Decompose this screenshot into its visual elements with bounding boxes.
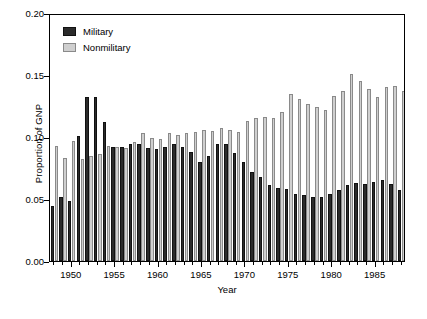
bar-nonmilitary — [324, 110, 327, 261]
x-tick-mark-minor — [392, 262, 393, 265]
x-tick-label: 1950 — [60, 269, 81, 280]
legend-label: Nonmilitary — [83, 42, 131, 53]
legend-item: Nonmilitary — [63, 40, 173, 54]
x-tick-label: 1965 — [190, 269, 211, 280]
bar-nonmilitary — [185, 133, 188, 261]
bar-military — [59, 197, 62, 261]
bar-nonmilitary — [332, 96, 335, 261]
x-tick-mark-minor — [184, 262, 185, 265]
x-tick-mark-minor — [305, 262, 306, 265]
x-tick-mark-major — [288, 262, 289, 267]
legend-swatch-icon — [63, 27, 76, 36]
bar-military — [146, 148, 149, 261]
x-tick-mark-minor — [227, 262, 228, 265]
x-tick-mark-minor — [401, 262, 402, 265]
bar-military — [250, 172, 253, 261]
bar-nonmilitary — [211, 131, 214, 261]
bar-nonmilitary — [306, 104, 309, 261]
y-axis-ticks: 0.000.050.100.150.20 — [10, 0, 44, 319]
bar-military — [372, 182, 375, 261]
bar-military — [328, 194, 331, 261]
bar-military — [224, 144, 227, 261]
bar-military — [233, 153, 236, 261]
bar-nonmilitary — [150, 138, 153, 261]
bar-nonmilitary — [176, 135, 179, 261]
bar-military — [259, 177, 262, 261]
bar-nonmilitary — [124, 148, 127, 261]
x-tick-mark-minor — [149, 262, 150, 265]
bar-nonmilitary — [194, 132, 197, 261]
bar-military — [198, 162, 201, 261]
bar-nonmilitary — [254, 118, 257, 261]
bar-military — [77, 136, 80, 261]
bar-military — [294, 194, 297, 261]
bar-nonmilitary — [341, 91, 344, 261]
x-tick-mark-major — [375, 262, 376, 267]
x-tick-mark-minor — [123, 262, 124, 265]
bar-military — [337, 190, 340, 261]
x-tick-label: 1985 — [364, 269, 385, 280]
bar-military — [276, 188, 279, 261]
bar-military — [111, 147, 114, 261]
bar-nonmilitary — [98, 154, 101, 261]
x-tick-mark-minor — [340, 262, 341, 265]
x-tick-mark-major — [201, 262, 202, 267]
bar-nonmilitary — [376, 97, 379, 261]
x-tick-mark-minor — [192, 262, 193, 265]
bar-military — [94, 97, 97, 261]
y-tick-label: 0.05 — [16, 195, 44, 205]
bar-nonmilitary — [89, 156, 92, 261]
bar-nonmilitary — [385, 87, 388, 261]
bar-nonmilitary — [115, 147, 118, 261]
bar-nonmilitary — [141, 133, 144, 261]
bar-military — [381, 180, 384, 261]
bar-nonmilitary — [272, 118, 275, 261]
x-tick-mark-minor — [357, 262, 358, 265]
bar-nonmilitary — [159, 139, 162, 261]
bar-military — [155, 149, 158, 261]
bar-nonmilitary — [107, 146, 110, 261]
x-tick-label: 1960 — [147, 269, 168, 280]
bar-military — [51, 206, 54, 261]
x-tick-mark-minor — [210, 262, 211, 265]
bar-military — [320, 197, 323, 261]
bar-military — [285, 189, 288, 261]
bar-nonmilitary — [202, 130, 205, 261]
bar-nonmilitary — [228, 130, 231, 261]
x-tick-mark-minor — [279, 262, 280, 265]
y-tick-label: 0.15 — [16, 71, 44, 81]
bar-military — [163, 147, 166, 261]
bar-military — [137, 144, 140, 261]
x-tick-mark-major — [331, 262, 332, 267]
bar-nonmilitary — [315, 107, 318, 261]
bar-military — [129, 144, 132, 261]
x-tick-mark-minor — [105, 262, 106, 265]
x-tick-mark-minor — [62, 262, 63, 265]
y-tick-label: 0.20 — [16, 9, 44, 19]
bar-nonmilitary — [220, 128, 223, 261]
bar-nonmilitary — [402, 91, 405, 261]
bar-nonmilitary — [359, 81, 362, 261]
bar-military — [181, 147, 184, 261]
x-tick-mark-minor — [270, 262, 271, 265]
legend-item: Military — [63, 24, 173, 38]
x-tick-mark-minor — [97, 262, 98, 265]
x-tick-mark-minor — [383, 262, 384, 265]
bar-military — [242, 162, 245, 261]
bar-nonmilitary — [298, 99, 301, 261]
x-tick-mark-major — [158, 262, 159, 267]
bar-nonmilitary — [280, 112, 283, 261]
bar-military — [363, 184, 366, 261]
y-tick-label: 0.10 — [16, 133, 44, 143]
bar-military — [302, 195, 305, 261]
bar-military — [172, 144, 175, 261]
x-tick-label: 1955 — [104, 269, 125, 280]
bar-military — [189, 152, 192, 261]
x-tick-mark-minor — [349, 262, 350, 265]
bar-military — [398, 190, 401, 261]
bar-nonmilitary — [393, 86, 396, 261]
x-tick-mark-major — [71, 262, 72, 267]
chart-legend: MilitaryNonmilitary — [63, 24, 173, 56]
bar-nonmilitary — [133, 142, 136, 261]
bar-military — [85, 97, 88, 261]
